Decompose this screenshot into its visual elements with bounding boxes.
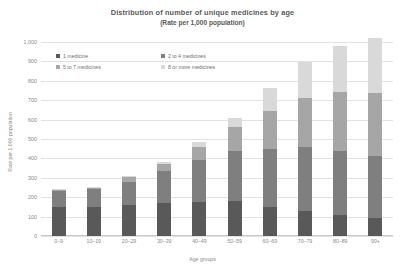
bar-segment (87, 207, 101, 236)
bar-segment (263, 149, 277, 207)
x-axis-tick-label: 30–39 (147, 238, 182, 244)
bar-column[interactable] (252, 42, 287, 236)
x-axis-tick-label: 70–79 (287, 238, 322, 244)
y-axis-tick-label: 0 (34, 233, 37, 239)
bar-segment (192, 147, 206, 161)
chart-container: Distribution of number of unique medicin… (0, 0, 405, 276)
x-axis-tick-label: 20–29 (111, 238, 146, 244)
stacked-bar[interactable] (52, 189, 66, 236)
bar-column[interactable] (217, 42, 252, 236)
bar-segment (298, 62, 312, 98)
bar-segment (368, 218, 382, 236)
bar-segment (333, 151, 347, 215)
y-axis-title: Rate per 1,000 population (7, 94, 13, 190)
bar-segment (52, 191, 66, 207)
bar-segment (263, 111, 277, 149)
bar-segment (157, 171, 171, 203)
stacked-bar[interactable] (157, 162, 171, 236)
bar-column[interactable] (182, 42, 217, 236)
x-axis-title: Age groups (0, 256, 405, 262)
bar-segment (263, 207, 277, 236)
bar-column[interactable] (41, 42, 76, 236)
bar-segment (333, 92, 347, 150)
x-axis-tick-label: 0–9 (41, 238, 76, 244)
plot-area: 1,0009008007006005004003002001000 (41, 42, 393, 236)
y-axis-tick-label: 700 (28, 97, 37, 103)
stacked-bar[interactable] (263, 88, 277, 236)
y-axis-tick-label: 400 (28, 155, 37, 161)
stacked-bar[interactable] (368, 38, 382, 236)
stacked-bar[interactable] (228, 118, 242, 236)
stacked-bar[interactable] (122, 176, 136, 236)
bar-segment (368, 93, 382, 155)
gridline (41, 236, 393, 237)
x-axis-tick-label: 50–59 (217, 238, 252, 244)
bar-segment (192, 160, 206, 202)
y-axis-tick-label: 1,000 (24, 39, 38, 45)
bar-segment (263, 88, 277, 111)
y-axis-tick-label: 300 (28, 175, 37, 181)
bar-series-group (41, 42, 393, 236)
bar-column[interactable] (76, 42, 111, 236)
bar-column[interactable] (147, 42, 182, 236)
chart-title-block: Distribution of number of unique medicin… (0, 8, 405, 28)
bar-segment (333, 215, 347, 236)
y-axis-tick-label: 100 (28, 214, 37, 220)
bar-column[interactable] (111, 42, 146, 236)
bar-segment (333, 46, 347, 93)
bar-segment (298, 211, 312, 236)
x-axis-tick-label: 10–19 (76, 238, 111, 244)
bar-segment (228, 151, 242, 201)
stacked-bar[interactable] (333, 46, 347, 236)
x-axis-tick-label: 60–69 (252, 238, 287, 244)
bar-segment (192, 202, 206, 236)
y-axis-tick-label: 500 (28, 136, 37, 142)
y-axis-tick-label: 900 (28, 58, 37, 64)
bar-segment (228, 118, 242, 128)
x-axis-tick-label: 40–49 (182, 238, 217, 244)
bar-segment (87, 189, 101, 206)
chart-subtitle: (Rate per 1,000 population) (0, 18, 405, 28)
bar-segment (52, 207, 66, 236)
stacked-bar[interactable] (298, 62, 312, 236)
bar-segment (368, 38, 382, 93)
y-axis-tick-label: 800 (28, 78, 37, 84)
bar-segment (157, 164, 171, 171)
bar-column[interactable] (323, 42, 358, 236)
bar-segment (368, 156, 382, 218)
bar-segment (228, 127, 242, 150)
bar-column[interactable] (358, 42, 393, 236)
x-axis-tick-label: 80–89 (323, 238, 358, 244)
stacked-bar[interactable] (192, 142, 206, 236)
bar-segment (298, 98, 312, 147)
x-axis-tick-label: 90+ (358, 238, 393, 244)
bar-segment (122, 182, 136, 205)
bar-segment (157, 203, 171, 236)
y-axis-tick-label: 200 (28, 194, 37, 200)
x-axis-tick-labels: 0–910–1920–2930–3940–4950–5960–6970–7980… (41, 238, 393, 244)
bar-column[interactable] (287, 42, 322, 236)
stacked-bar[interactable] (87, 187, 101, 236)
chart-title: Distribution of number of unique medicin… (0, 8, 405, 18)
bar-segment (298, 147, 312, 211)
y-axis-tick-label: 600 (28, 117, 37, 123)
bar-segment (122, 205, 136, 236)
bar-segment (228, 201, 242, 236)
